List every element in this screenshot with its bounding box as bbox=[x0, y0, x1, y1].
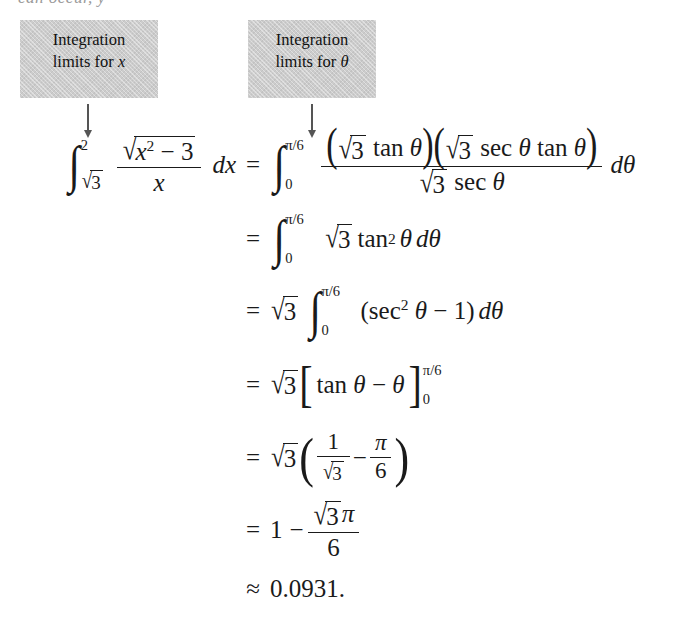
relation-equals-2: = bbox=[236, 225, 270, 253]
fraction-denominator: √3 bbox=[317, 456, 350, 484]
lower-limit: 0 bbox=[321, 322, 328, 339]
callout-integration-limits-x: Integration limits for x bbox=[20, 20, 158, 98]
integral-sign: ∫ bbox=[69, 146, 80, 183]
upper-limit: π/6 bbox=[285, 211, 304, 228]
equation-line-4: = √3 [ tan θ − θ ] π/6 0 bbox=[0, 348, 675, 421]
relation-equals-5: = bbox=[236, 444, 270, 472]
fraction-denominator: 6 bbox=[308, 532, 360, 561]
fraction-root-three-pi-over-six: √3π 6 bbox=[308, 500, 360, 561]
sqrt-three-coefficient: √3 bbox=[271, 443, 298, 473]
paren-open: ( bbox=[299, 436, 314, 480]
fraction-numerator: π bbox=[370, 431, 392, 457]
paren-close: ) bbox=[394, 436, 409, 480]
callout-theta-line2-prefix: limits for bbox=[275, 52, 340, 71]
upper-limit: π/6 bbox=[285, 137, 304, 154]
integral-line-2: ∫ π/6 0 bbox=[272, 217, 315, 261]
sqrt-three-coefficient: √3 bbox=[271, 370, 298, 400]
relation-approx: ≈ bbox=[236, 575, 270, 603]
integral-rhs: ∫ π/6 0 bbox=[272, 143, 315, 187]
equation-line-3: = √3 ∫ π/6 0 (sec2 θ − 1) dθ bbox=[0, 274, 675, 348]
eval-upper-limit: π/6 bbox=[423, 362, 442, 379]
integrand-fraction-lhs: √x2 − 3 x bbox=[117, 135, 202, 196]
relation-equals-4: = bbox=[236, 371, 270, 399]
integral-sign: ∫ bbox=[273, 146, 284, 183]
line-2-right-side: ∫ π/6 0 √3 tan2 θ dθ bbox=[270, 217, 441, 261]
callout-x-variable: x bbox=[118, 52, 125, 71]
lower-limit: 0 bbox=[285, 250, 292, 267]
line-6-right-side: 1 − √3π 6 bbox=[270, 500, 363, 561]
line-1-left-side: ∫ 2 √3 √x2 − 3 x dx bbox=[0, 135, 236, 196]
integral-line-3: ∫ π/6 0 bbox=[308, 289, 351, 333]
integrand-expression: (sec2 θ − 1) bbox=[360, 297, 474, 325]
line-5-right-side: √3 ( 1 √3 − π 6 ) bbox=[270, 430, 409, 484]
leading-one: 1 bbox=[270, 516, 283, 544]
line-1-right-side: ∫ π/6 0 (√3 tan θ)(√3 sec θ tan θ) √3 se… bbox=[270, 131, 635, 199]
fraction-numerator: (√3 tan θ)(√3 sec θ tan θ) bbox=[321, 131, 602, 166]
integral-limits: π/6 0 bbox=[285, 143, 315, 187]
integral-lhs: ∫ 2 √3 bbox=[67, 143, 110, 187]
integrand-fraction-rhs: (√3 tan θ)(√3 sec θ tan θ) √3 sec θ bbox=[321, 131, 602, 199]
differential-dx: dx bbox=[212, 151, 236, 179]
fraction-pi-over-six: π 6 bbox=[370, 431, 392, 484]
minus-sign: − bbox=[290, 516, 304, 544]
eval-lower-limit: 0 bbox=[423, 391, 430, 408]
integral-sign: ∫ bbox=[310, 292, 321, 329]
minus-sign: − bbox=[353, 444, 367, 472]
fraction-denominator: √3 sec θ bbox=[321, 166, 602, 199]
callout-theta-line2: limits for θ bbox=[254, 51, 370, 73]
callout-integration-limits-theta: Integration limits for θ bbox=[248, 20, 376, 98]
fraction-denominator: 6 bbox=[370, 457, 392, 484]
callout-x-line1: Integration bbox=[26, 29, 152, 51]
equation-line-2: = ∫ π/6 0 √3 tan2 θ dθ bbox=[0, 204, 675, 274]
upper-limit: 2 bbox=[81, 137, 88, 154]
fraction-one-over-root-three: 1 √3 bbox=[317, 430, 350, 484]
fraction-numerator: 1 bbox=[323, 430, 345, 456]
equation-derivation: ∫ 2 √3 √x2 − 3 x dx = ∫ π/6 0 bbox=[0, 126, 675, 612]
callout-theta-variable: θ bbox=[340, 52, 348, 71]
fraction-numerator: √x2 − 3 bbox=[117, 135, 202, 167]
callout-x-line2: limits for x bbox=[26, 51, 152, 73]
bracket-open: [ bbox=[299, 365, 312, 405]
callout-theta-line1: Integration bbox=[254, 29, 370, 51]
lower-limit: 0 bbox=[285, 176, 292, 193]
callout-x-line2-prefix: limits for bbox=[53, 52, 118, 71]
integral-limits: 2 √3 bbox=[81, 143, 111, 187]
line-3-right-side: √3 ∫ π/6 0 (sec2 θ − 1) dθ bbox=[270, 289, 503, 333]
equation-line-5: = √3 ( 1 √3 − π 6 ) bbox=[0, 421, 675, 494]
evaluated-expression: tan θ − θ bbox=[317, 371, 405, 399]
fraction-denominator: x bbox=[117, 167, 202, 196]
differential-dtheta: dθ bbox=[478, 297, 503, 325]
clipped-top-text: can occur, y bbox=[18, 0, 106, 8]
line-4-right-side: √3 [ tan θ − θ ] π/6 0 bbox=[270, 362, 441, 408]
numeric-result: 0.0931 bbox=[270, 575, 339, 603]
sqrt-three: √3 bbox=[325, 224, 352, 254]
sentence-period: . bbox=[339, 575, 345, 603]
variable-theta: θ bbox=[400, 225, 412, 253]
integral-limits: π/6 0 bbox=[321, 289, 351, 333]
equation-line-1: ∫ 2 √3 √x2 − 3 x dx = ∫ π/6 0 bbox=[0, 126, 675, 204]
relation-equals-3: = bbox=[236, 297, 270, 325]
relation-equals-6: = bbox=[236, 516, 270, 544]
differential-dtheta: dθ bbox=[610, 151, 635, 179]
integral-limits: π/6 0 bbox=[285, 217, 315, 261]
upper-limit: π/6 bbox=[321, 283, 340, 300]
tan-function: tan bbox=[357, 225, 388, 253]
differential-dtheta: dθ bbox=[416, 225, 441, 253]
line-7-right-side: 0.0931. bbox=[270, 575, 345, 603]
equation-line-6: = 1 − √3π 6 bbox=[0, 494, 675, 566]
evaluation-limits: π/6 0 bbox=[423, 362, 442, 408]
sqrt-three-coefficient: √3 bbox=[271, 296, 298, 326]
fraction-numerator: √3π bbox=[308, 500, 360, 532]
bracket-close: ] bbox=[409, 365, 422, 405]
equation-line-7: ≈ 0.0931. bbox=[0, 566, 675, 612]
lower-limit: √3 bbox=[81, 170, 104, 193]
integral-sign: ∫ bbox=[273, 220, 284, 257]
relation-equals-1: = bbox=[236, 151, 270, 179]
